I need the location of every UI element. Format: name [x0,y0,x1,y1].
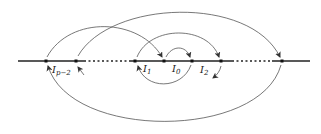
arrow-short-left [78,67,84,75]
label-i-0: I0 [171,63,181,76]
point-dot [281,60,284,63]
point-dot [134,60,137,63]
arrow-short-right [213,66,221,78]
arc-upper-small [166,48,190,57]
label-i-1: I1 [142,63,151,76]
point-dot [75,60,78,63]
label-i-p-2: Ip−2 [51,64,71,77]
interval-diagram: Ip−2 I1 I0 I2 [0,0,321,134]
arc-upper-big [78,12,280,57]
point-dot [220,60,223,63]
point-dot [45,60,48,63]
arc-upper-mid [137,33,219,57]
point-dot [191,60,194,63]
point-dot [163,60,166,63]
label-i-2: I2 [199,64,209,77]
